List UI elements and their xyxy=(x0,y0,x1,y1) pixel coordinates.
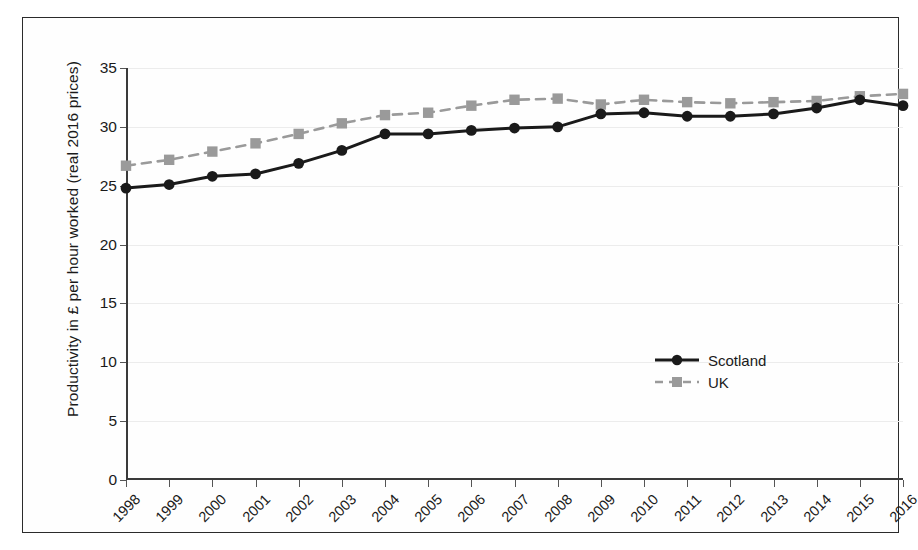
y-tick-label: 5 xyxy=(108,412,117,430)
figure-frame: Productivity in £ per hour worked (real … xyxy=(22,17,899,533)
data-point xyxy=(466,100,476,110)
legend-item-uk: UK xyxy=(653,371,766,393)
plot-area: 05101520253035 1998199920002001200220032… xyxy=(126,68,903,480)
y-tick-label: 35 xyxy=(100,59,117,77)
data-point xyxy=(164,179,175,190)
data-point xyxy=(552,93,562,103)
data-point xyxy=(293,129,303,139)
x-tick-mark xyxy=(558,480,559,487)
data-point xyxy=(854,94,865,105)
x-tick-mark xyxy=(385,480,386,487)
data-point xyxy=(639,107,650,118)
data-point xyxy=(423,129,434,140)
data-point xyxy=(811,103,822,114)
x-tick-label: 2004 xyxy=(368,491,402,525)
x-tick-label: 2014 xyxy=(800,491,834,525)
y-tick-label: 20 xyxy=(100,236,117,254)
data-point xyxy=(682,97,692,107)
legend-key-scotland xyxy=(653,351,701,369)
data-point xyxy=(595,109,606,120)
x-tick-mark xyxy=(903,480,904,487)
x-tick-label: 2015 xyxy=(843,491,877,525)
x-tick-mark xyxy=(342,480,343,487)
data-point xyxy=(768,97,778,107)
legend-item-scotland: Scotland xyxy=(653,349,766,371)
data-point xyxy=(725,111,736,122)
x-tick-label: 1998 xyxy=(109,491,143,525)
data-point xyxy=(509,95,519,105)
data-point xyxy=(768,109,779,120)
data-point xyxy=(596,99,606,109)
data-point xyxy=(337,118,347,128)
x-tick-label: 2007 xyxy=(498,491,532,525)
x-tick-mark xyxy=(644,480,645,487)
data-point xyxy=(207,171,218,182)
data-point xyxy=(293,158,304,169)
x-tick-mark xyxy=(774,480,775,487)
x-tick-label: 2003 xyxy=(325,491,359,525)
data-point xyxy=(898,89,908,99)
x-tick-label: 2008 xyxy=(541,491,575,525)
x-tick-label: 2012 xyxy=(714,491,748,525)
x-tick-mark xyxy=(428,480,429,487)
series-layer xyxy=(126,68,903,480)
y-tick-label: 25 xyxy=(100,177,117,195)
data-point xyxy=(207,146,217,156)
x-tick-label: 2016 xyxy=(886,491,918,525)
data-point xyxy=(121,161,131,171)
data-point xyxy=(380,110,390,120)
data-point xyxy=(682,111,693,122)
x-tick-mark xyxy=(256,480,257,487)
y-axis-title: Productivity in £ per hour worked (real … xyxy=(64,29,82,449)
x-tick-label: 1999 xyxy=(152,491,186,525)
x-tick-mark xyxy=(471,480,472,487)
x-tick-label: 2009 xyxy=(584,491,618,525)
y-tick-label: 30 xyxy=(100,118,117,136)
x-tick-mark xyxy=(817,480,818,487)
x-tick-label: 2005 xyxy=(411,491,445,525)
series-line xyxy=(126,100,903,188)
x-tick-mark xyxy=(299,480,300,487)
x-tick-label: 2010 xyxy=(627,491,661,525)
y-tick-label: 0 xyxy=(108,471,117,489)
x-tick-label: 2001 xyxy=(239,491,273,525)
x-tick-label: 2011 xyxy=(671,491,704,524)
x-tick-label: 2002 xyxy=(282,491,316,525)
data-point xyxy=(250,138,260,148)
x-tick-mark xyxy=(169,480,170,487)
data-point xyxy=(380,129,391,140)
x-tick-label: 2006 xyxy=(455,491,489,525)
data-point xyxy=(336,145,347,156)
data-point xyxy=(164,155,174,165)
data-point xyxy=(466,125,477,136)
x-tick-label: 2000 xyxy=(196,491,230,525)
x-tick-mark xyxy=(212,480,213,487)
chart-legend: Scotland UK xyxy=(653,349,766,393)
x-tick-mark xyxy=(126,480,127,487)
data-point xyxy=(121,183,132,194)
x-tick-mark xyxy=(730,480,731,487)
x-tick-mark xyxy=(515,480,516,487)
series-scotland xyxy=(121,94,909,193)
data-point xyxy=(898,100,909,111)
data-point xyxy=(725,98,735,108)
legend-label-scotland: Scotland xyxy=(708,353,766,368)
x-tick-mark xyxy=(601,480,602,487)
x-tick-mark xyxy=(860,480,861,487)
chart-figure: Productivity in £ per hour worked (real … xyxy=(0,0,918,550)
data-point xyxy=(639,95,649,105)
y-tick-label: 10 xyxy=(100,353,117,371)
x-tick-label: 2013 xyxy=(757,491,791,525)
y-tick-label: 15 xyxy=(100,294,117,312)
data-point xyxy=(552,121,563,132)
data-point xyxy=(423,108,433,118)
legend-label-uk: UK xyxy=(708,375,729,390)
x-tick-mark xyxy=(687,480,688,487)
data-point xyxy=(509,123,520,134)
data-point xyxy=(250,169,261,180)
legend-key-uk xyxy=(653,373,701,391)
